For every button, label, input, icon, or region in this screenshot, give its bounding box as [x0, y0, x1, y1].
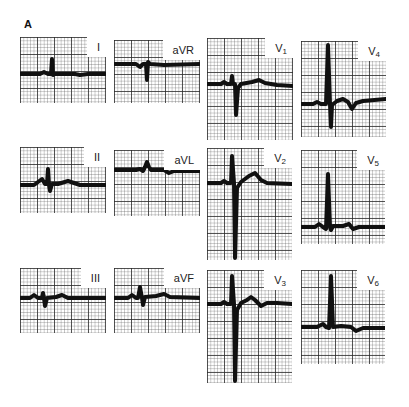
lead-v6-strip: V6 [301, 270, 385, 364]
lead-avf-strip: aVF [114, 268, 200, 333]
lead-label: V2 [264, 148, 292, 168]
lead-label: aVF [164, 268, 200, 288]
lead-v3-strip: V3 [207, 270, 292, 383]
lead-label: V3 [264, 270, 292, 290]
lead-v4-strip: V4 [301, 41, 386, 137]
panel-label: A [24, 18, 32, 30]
lead-label: I [87, 37, 106, 57]
lead-label: aVR [163, 40, 200, 60]
lead-label: V1 [265, 38, 293, 58]
lead-label: V5 [357, 150, 385, 170]
lead-label: II [84, 147, 106, 167]
lead-label: V4 [358, 41, 386, 61]
lead-avr-strip: aVR [114, 40, 200, 103]
lead-avl-strip: aVL [114, 150, 200, 216]
lead-ii-strip: II [20, 147, 106, 213]
lead-label: aVL [164, 150, 200, 170]
lead-label: V6 [357, 270, 385, 290]
lead-v2-strip: V2 [207, 148, 292, 260]
lead-v5-strip: V5 [301, 150, 385, 244]
lead-i-strip: I [20, 37, 106, 103]
lead-iii-strip: III [20, 268, 106, 333]
lead-v1-strip: V1 [207, 38, 293, 140]
lead-label: III [81, 268, 106, 288]
